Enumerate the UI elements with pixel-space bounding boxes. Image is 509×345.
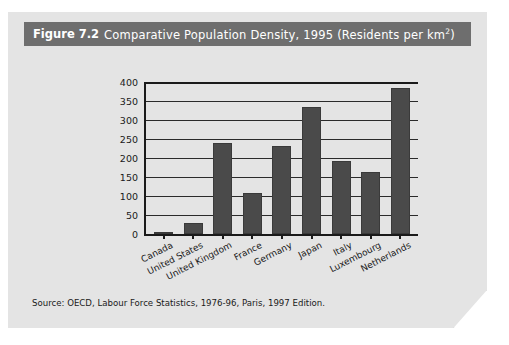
- x-axis-tick: [272, 234, 291, 239]
- bar: [361, 172, 380, 234]
- x-axis-category-label: Japan: [296, 240, 323, 260]
- figure-title: Comparative Population Density, 1995 (Re…: [104, 27, 455, 42]
- source-note: Source: OECD, Labour Force Statistics, 1…: [32, 298, 325, 308]
- x-axis-tick: [391, 234, 410, 239]
- x-axis-tick: [243, 234, 262, 239]
- bar: [272, 146, 291, 234]
- y-axis-tick-label: 0: [132, 229, 138, 240]
- bar: [243, 193, 262, 234]
- figure-title-main: Comparative Population Density, 1995 (Re…: [104, 27, 445, 41]
- bar-chart: 050100150200250300350400 CanadaUnited St…: [108, 82, 418, 257]
- bar-series: [146, 82, 418, 234]
- y-axis-tick-label: 150: [120, 172, 138, 183]
- y-axis-tick-label: 250: [120, 134, 138, 145]
- y-axis-tick-label: 350: [120, 96, 138, 107]
- bar: [302, 107, 321, 234]
- bar: [332, 161, 351, 234]
- figure-title-band: Figure 7.2 Comparative Population Densit…: [24, 22, 471, 46]
- x-axis-labels: CanadaUnited StatesUnited KingdomFranceG…: [144, 240, 418, 300]
- y-axis-tick-label: 50: [126, 210, 138, 221]
- x-axis-tick: [154, 234, 173, 239]
- bar: [213, 143, 232, 234]
- y-axis-tick-label: 100: [120, 191, 138, 202]
- y-axis-tick-label: 300: [120, 115, 138, 126]
- y-axis-tick-label: 400: [120, 77, 138, 88]
- x-axis-tick: [184, 234, 203, 239]
- bar: [391, 88, 410, 234]
- bar: [184, 223, 203, 234]
- x-axis-tick: [332, 234, 351, 239]
- plot-area: [144, 82, 418, 236]
- figure-number: Figure 7.2: [33, 27, 99, 41]
- x-axis-tick: [302, 234, 321, 239]
- x-axis-tick: [361, 234, 380, 239]
- y-axis-tick-label: 200: [120, 153, 138, 164]
- figure-title-close: ): [450, 27, 455, 41]
- figure-page: Figure 7.2 Comparative Population Densit…: [8, 12, 487, 328]
- y-axis-labels: 050100150200250300350400: [108, 82, 138, 234]
- x-axis-ticks: [146, 234, 418, 239]
- x-axis-tick: [213, 234, 232, 239]
